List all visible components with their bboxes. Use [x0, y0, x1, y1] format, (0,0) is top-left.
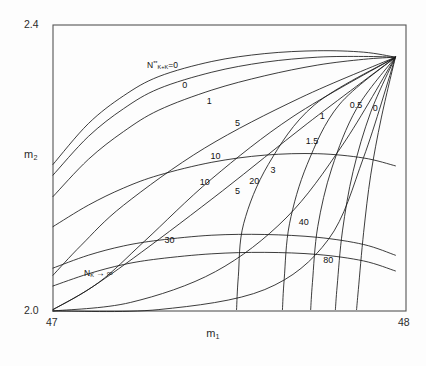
family-a-tail: =0 — [168, 60, 178, 70]
plot-canvas — [0, 0, 426, 366]
family-b-sub: K — [90, 272, 94, 278]
figure-root: 2.4 2.0 47 48 m2 m1 N**K+K=0 NK→ ∞ 01510… — [0, 0, 426, 366]
curve-label-B-5: 5 — [235, 186, 240, 196]
ytick-top-label: 2.4 — [24, 18, 39, 30]
curve-label-B-3: 3 — [270, 165, 275, 175]
curve-label-B-0.5: 0.5 — [350, 100, 363, 110]
x-axis-label: m1 — [206, 327, 220, 341]
curve-label-B-40: 40 — [299, 217, 309, 227]
y-axis-label-sub: 2 — [33, 153, 37, 162]
curve-B-10 — [53, 57, 395, 275]
family-b-tail: → ∞ — [96, 268, 113, 278]
curve-A-30 — [53, 234, 395, 268]
y-axis-label-text: m — [24, 148, 33, 160]
curve-label-A-10: 10 — [200, 177, 210, 187]
curve-A-1 — [53, 56, 395, 175]
family-a-sub: K+K — [158, 64, 169, 70]
curve-label-B-10: 10 — [210, 151, 220, 161]
curve-B-1 — [311, 57, 396, 309]
curve-label-B-0: 0 — [373, 103, 378, 113]
curve-label-B-1: 1 — [320, 111, 325, 121]
ytick-bottom-label: 2.0 — [24, 304, 39, 316]
curve-A-0 — [53, 51, 395, 165]
xtick-left-label: 47 — [46, 316, 58, 328]
curve-label-A-30: 30 — [164, 235, 174, 245]
x-axis-label-sub: 1 — [216, 332, 220, 341]
curve-label-A-1: 1 — [207, 96, 212, 106]
x-axis-label-text: m — [206, 327, 215, 339]
xtick-right-label: 48 — [398, 316, 410, 328]
curve-label-B-80: 80 — [323, 255, 333, 265]
curve-label-B-20: 20 — [249, 176, 259, 186]
curve-A-10 — [53, 154, 395, 227]
curve-label-A-5: 5 — [235, 118, 240, 128]
family-b-annotation: NK→ ∞ — [84, 268, 113, 278]
curve-B-1.5 — [282, 57, 395, 309]
curve-B-0 — [357, 57, 396, 309]
y-axis-label: m2 — [24, 148, 38, 162]
family-a-annotation: N**K+K=0 — [147, 60, 178, 70]
curve-label-A-0: 0 — [182, 80, 187, 90]
curve-label-B-1.5: 1.5 — [306, 136, 319, 146]
